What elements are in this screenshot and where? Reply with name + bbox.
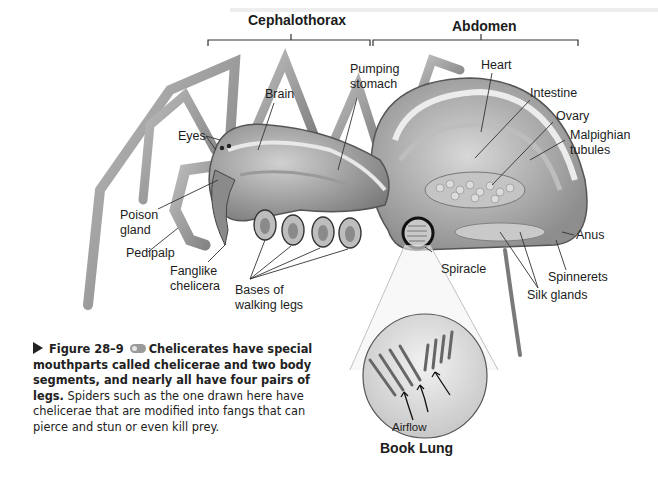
caption-triangle-icon: [33, 342, 43, 354]
label-spiracle: Spiracle: [441, 262, 486, 277]
caption-body-text: Spiders such as the one drawn here have …: [33, 389, 305, 434]
label-poison-gland: Poison gland: [120, 208, 158, 238]
online-resource-icon[interactable]: [130, 344, 146, 353]
label-eyes: Eyes: [178, 129, 206, 144]
label-silk-glands: Silk glands: [527, 288, 587, 303]
label-ovary: Ovary: [556, 109, 589, 124]
label-pumping-stomach: Pumping stomach: [350, 62, 399, 92]
cephalothorax-bracket: [208, 34, 370, 46]
cephalothorax-header: Cephalothorax: [248, 12, 346, 28]
abdomen-bracket: [373, 34, 578, 46]
book-lung-title: Book Lung: [380, 440, 453, 456]
label-airflow: Airflow: [392, 420, 427, 435]
label-bases-of-walking-legs: Bases of walking legs: [235, 283, 303, 313]
leg-bases-drawing: [254, 210, 361, 248]
label-pedipalp: Pedipalp: [126, 246, 175, 261]
label-heart: Heart: [481, 58, 512, 73]
label-intestine: Intestine: [530, 86, 577, 101]
label-anus: Anus: [576, 228, 605, 243]
label-brain: Brain: [265, 87, 294, 102]
label-spinnerets: Spinnerets: [548, 270, 608, 285]
spiracle-highlight-circle: [403, 218, 433, 248]
label-malpighian-tubules: Malpighian tubules: [570, 128, 630, 158]
figure-caption: Figure 28–9Chelicerates have special mou…: [33, 342, 323, 435]
figure-number: Figure 28–9: [49, 342, 124, 356]
label-fanglike-chelicera: Fanglike chelicera: [170, 264, 220, 294]
abdomen-header: Abdomen: [452, 18, 517, 34]
